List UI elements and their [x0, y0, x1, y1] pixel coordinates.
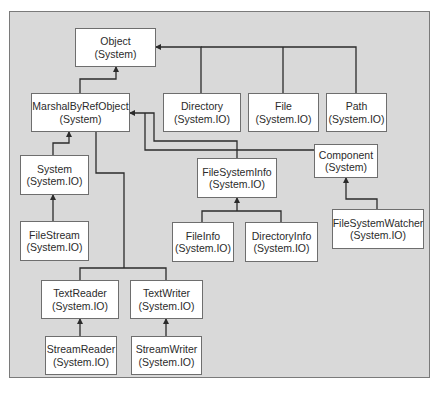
node-component-name: Component [319, 149, 373, 162]
node-filestream-namespace: (System.IO) [26, 241, 82, 254]
node-streamreader-name: StreamReader [47, 343, 115, 356]
node-object: Object (System) [75, 28, 156, 67]
node-marshalbyrefobject-name: MarshalByRefObject [32, 100, 128, 113]
node-filesystemwatcher-namespace: (System.IO) [350, 229, 406, 242]
node-filesysteminfo: FileSystemInfo (System.IO) [197, 158, 277, 198]
node-system: System (System.IO) [20, 155, 89, 195]
node-textreader: TextReader (System.IO) [41, 280, 119, 319]
node-textwriter-name: TextWriter [143, 287, 190, 300]
node-marshalbyrefobject-namespace: (System) [60, 113, 102, 126]
node-filestream-name: FileStream [29, 229, 80, 242]
node-filesysteminfo-name: FileSystemInfo [202, 166, 271, 179]
node-directoryinfo: DirectoryInfo (System.IO) [245, 222, 318, 262]
node-object-name: Object [100, 35, 130, 48]
node-directory: Directory (System.IO) [163, 93, 241, 132]
node-path-name: Path [346, 100, 368, 113]
node-textwriter: TextWriter (System.IO) [130, 280, 203, 319]
node-directory-name: Directory [181, 100, 223, 113]
node-object-namespace: (System) [95, 48, 137, 61]
node-filesysteminfo-namespace: (System.IO) [209, 178, 265, 191]
node-directory-namespace: (System.IO) [174, 113, 230, 126]
node-directoryinfo-name: DirectoryInfo [252, 230, 312, 243]
node-textreader-name: TextReader [53, 287, 107, 300]
node-directoryinfo-namespace: (System.IO) [253, 242, 309, 255]
node-streamreader-namespace: (System.IO) [53, 356, 109, 369]
node-file: File (System.IO) [248, 93, 319, 132]
node-marshalbyrefobject: MarshalByRefObject (System) [31, 93, 130, 132]
node-fileinfo: FileInfo (System.IO) [172, 222, 234, 262]
node-fileinfo-name: FileInfo [186, 230, 220, 243]
node-filestream: FileStream (System.IO) [20, 221, 89, 261]
node-system-name: System [37, 163, 72, 176]
node-streamwriter-namespace: (System.IO) [138, 356, 194, 369]
node-streamwriter: StreamWriter (System.IO) [131, 336, 202, 375]
node-textwriter-namespace: (System.IO) [138, 300, 194, 313]
node-component: Component (System) [314, 144, 378, 178]
node-path: Path (System.IO) [326, 93, 387, 132]
node-streamreader: StreamReader (System.IO) [45, 336, 117, 375]
node-component-namespace: (System) [325, 161, 367, 174]
node-path-namespace: (System.IO) [328, 113, 384, 126]
node-textreader-namespace: (System.IO) [52, 300, 108, 313]
node-streamwriter-name: StreamWriter [136, 343, 198, 356]
node-file-name: File [275, 100, 292, 113]
node-filesystemwatcher-name: FileSystemWatcher [333, 217, 424, 230]
node-file-namespace: (System.IO) [255, 113, 311, 126]
node-fileinfo-namespace: (System.IO) [175, 242, 231, 255]
node-filesystemwatcher: FileSystemWatcher (System.IO) [332, 209, 424, 249]
node-system-namespace: (System.IO) [26, 175, 82, 188]
